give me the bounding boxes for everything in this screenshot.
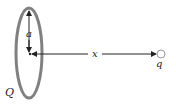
label-distance: x [92, 48, 98, 59]
point-charge [157, 50, 165, 58]
label-radius: a [26, 28, 32, 39]
label-point-charge: q [156, 58, 162, 69]
ring-center-point [29, 53, 31, 55]
ring-charge-diagram: a x q Q [0, 0, 176, 111]
label-ring-charge: Q [5, 86, 14, 99]
